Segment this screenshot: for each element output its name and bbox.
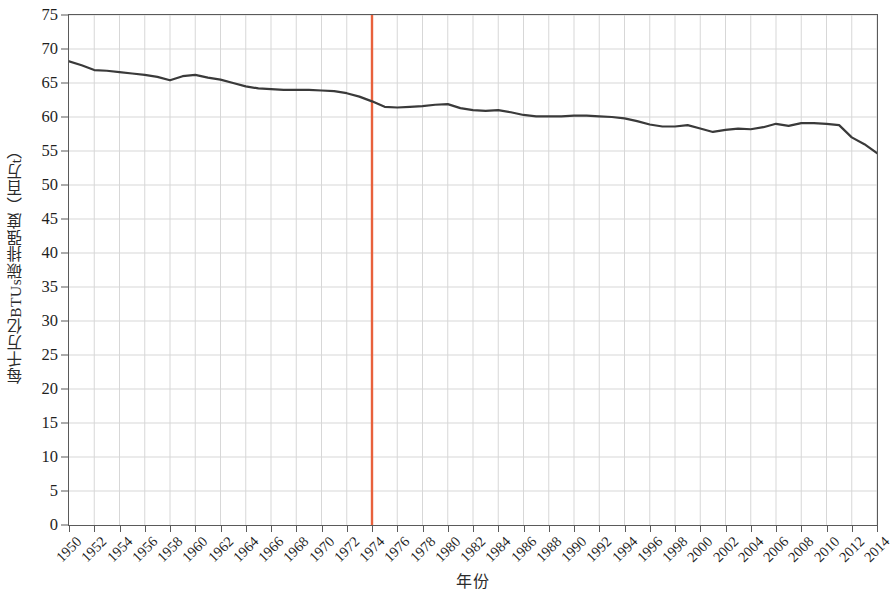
x-axis-tick-mark xyxy=(675,526,676,532)
x-axis-tick-label: 2014 xyxy=(861,534,892,565)
y-axis-tick-mark xyxy=(61,219,68,220)
x-axis-tick-mark xyxy=(524,526,525,532)
x-axis-tick-label: 1982 xyxy=(457,534,488,565)
chart-canvas xyxy=(69,15,877,525)
x-axis-tick-label: 2004 xyxy=(735,534,766,565)
x-axis-tick-mark xyxy=(549,526,550,532)
x-axis-tick-label: 2006 xyxy=(760,534,791,565)
y-axis-tick-mark xyxy=(61,287,68,288)
y-axis-tick-mark xyxy=(61,151,68,152)
x-axis-tick-label: 1980 xyxy=(432,534,463,565)
y-axis-tick-mark xyxy=(61,525,68,526)
x-axis-tick-mark xyxy=(322,526,323,532)
x-axis-tick-mark xyxy=(69,526,70,532)
x-axis-tick-mark xyxy=(195,526,196,532)
x-axis-tick-mark xyxy=(372,526,373,532)
y-axis-tick-label: 20 xyxy=(42,381,59,398)
x-axis-tick-label: 1992 xyxy=(584,534,615,565)
y-axis-tick-mark xyxy=(61,83,68,84)
x-axis-tick-mark xyxy=(296,526,297,532)
x-axis-tick-label: 2012 xyxy=(836,534,867,565)
x-axis-tick-label: 1994 xyxy=(609,534,640,565)
x-axis-tick-mark xyxy=(347,526,348,532)
x-axis-tick-mark xyxy=(170,526,171,532)
x-axis-tick-label: 1978 xyxy=(407,534,438,565)
x-axis-tick-mark xyxy=(423,526,424,532)
x-axis-tick-label: 1966 xyxy=(255,534,286,565)
x-axis-tick-label: 1964 xyxy=(230,534,261,565)
y-axis-tick-mark xyxy=(61,491,68,492)
y-axis-tick-label: 70 xyxy=(42,41,59,58)
x-axis-tick-label: 1962 xyxy=(205,534,236,565)
y-axis-tick-label: 30 xyxy=(42,313,59,330)
x-axis-tick-label: 2002 xyxy=(710,534,741,565)
x-axis-tick-label: 1970 xyxy=(306,534,337,565)
x-axis-tick-mark xyxy=(145,526,146,532)
x-axis-tick-mark xyxy=(726,526,727,532)
y-axis-tick-mark xyxy=(61,117,68,118)
y-axis-ticks: 051015202530354045505560657075 xyxy=(0,0,68,540)
y-axis-tick-label: 50 xyxy=(42,177,59,194)
y-axis-tick-mark xyxy=(61,49,68,50)
x-axis-tick-mark xyxy=(271,526,272,532)
y-axis-tick-label: 40 xyxy=(42,245,59,262)
x-axis-tick-mark xyxy=(599,526,600,532)
x-axis-tick-mark xyxy=(801,526,802,532)
y-axis-tick-mark xyxy=(61,389,68,390)
grid-lines xyxy=(69,15,877,525)
x-axis-tick-label: 1954 xyxy=(104,534,135,565)
x-axis-tick-label: 1998 xyxy=(659,534,690,565)
x-axis-tick-mark xyxy=(246,526,247,532)
y-axis-tick-mark xyxy=(61,185,68,186)
plot-area-wrapper xyxy=(68,14,878,526)
x-axis-tick-label: 1958 xyxy=(154,534,185,565)
x-axis-tick-mark xyxy=(120,526,121,532)
y-axis-tick-label: 55 xyxy=(42,143,59,160)
x-axis-tick-label: 1996 xyxy=(634,534,665,565)
x-axis-tick-mark xyxy=(827,526,828,532)
x-axis-tick-mark xyxy=(877,526,878,532)
x-axis-tick-label: 2000 xyxy=(685,534,716,565)
x-axis-tick-label: 1986 xyxy=(508,534,539,565)
y-axis-tick-label: 15 xyxy=(42,415,59,432)
y-axis-tick-label: 35 xyxy=(42,279,59,296)
x-axis-tick-mark xyxy=(448,526,449,532)
x-axis-tick-label: 2008 xyxy=(786,534,817,565)
x-axis-tick-mark xyxy=(498,526,499,532)
y-axis-tick-label: 75 xyxy=(42,7,59,24)
x-axis-tick-label: 1972 xyxy=(331,534,362,565)
y-axis-tick-mark xyxy=(61,423,68,424)
x-axis-title: 年份 xyxy=(68,568,878,592)
plot-area xyxy=(68,14,878,526)
x-axis-tick-label: 1976 xyxy=(382,534,413,565)
x-axis-tick-label: 1984 xyxy=(483,534,514,565)
y-axis-tick-label: 65 xyxy=(42,75,59,92)
x-axis-tick-label: 1988 xyxy=(533,534,564,565)
x-axis-tick-mark xyxy=(94,526,95,532)
x-axis-tick-mark xyxy=(221,526,222,532)
x-axis-tick-mark xyxy=(574,526,575,532)
x-axis-tick-mark xyxy=(751,526,752,532)
y-axis-tick-mark xyxy=(61,457,68,458)
y-axis-tick-label: 25 xyxy=(42,347,59,364)
x-axis-tick-label: 2010 xyxy=(811,534,842,565)
x-axis-tick-mark xyxy=(625,526,626,532)
x-axis-tick-label: 1990 xyxy=(558,534,589,565)
y-axis-tick-label: 45 xyxy=(42,211,59,228)
x-axis-tick-mark xyxy=(852,526,853,532)
y-axis-tick-label: 10 xyxy=(42,449,59,466)
y-axis-tick-mark xyxy=(61,15,68,16)
x-axis-tick-label: 1968 xyxy=(281,534,312,565)
x-axis-tick-mark xyxy=(397,526,398,532)
y-axis-tick-label: 5 xyxy=(50,483,58,500)
x-axis-tick-mark xyxy=(700,526,701,532)
x-axis-tick-mark xyxy=(776,526,777,532)
x-axis-tick-label: 1952 xyxy=(79,534,110,565)
y-axis-tick-label: 60 xyxy=(42,109,59,126)
y-axis-tick-mark xyxy=(61,355,68,356)
y-axis-tick-mark xyxy=(61,253,68,254)
x-axis-tick-label: 1974 xyxy=(356,534,387,565)
x-axis-tick-label: 1960 xyxy=(180,534,211,565)
x-axis-tick-label: 1956 xyxy=(129,534,160,565)
